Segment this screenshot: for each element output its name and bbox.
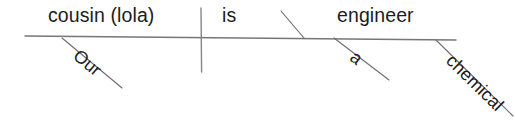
predicate-nominative-slant-line xyxy=(281,11,304,38)
baseline-horizontal xyxy=(25,36,456,40)
predicate-nominative-word: engineer xyxy=(337,6,414,26)
verb-word: is xyxy=(222,6,236,26)
sentence-diagram: cousin (lola) is engineer Our a chemical xyxy=(0,0,515,134)
subject-word: cousin (lola) xyxy=(48,6,154,26)
subject-verb-divider-line xyxy=(201,8,202,72)
